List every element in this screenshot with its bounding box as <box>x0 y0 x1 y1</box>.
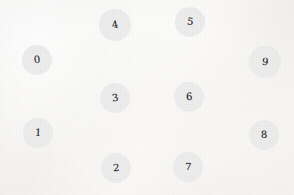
circle-node-label: 1 <box>34 128 41 138</box>
circle-node-label: 6 <box>185 92 192 102</box>
circle-node-9[interactable]: 9 <box>249 46 281 78</box>
circle-node-label: 3 <box>111 93 119 104</box>
circle-node-label: 7 <box>185 162 192 172</box>
circle-node-label: 8 <box>261 130 268 140</box>
circle-node-label: 0 <box>33 55 40 66</box>
circle-node-1[interactable]: 1 <box>23 118 53 148</box>
circle-node-6[interactable]: 6 <box>174 82 204 112</box>
circle-node-label: 4 <box>111 20 119 31</box>
circle-node-0[interactable]: 0 <box>22 45 52 75</box>
paper-texture-overlay <box>0 0 294 195</box>
vignette-overlay <box>0 0 294 195</box>
circle-node-8[interactable]: 8 <box>249 120 279 150</box>
circle-node-label: 5 <box>186 17 194 28</box>
diagram-canvas: 0123456789 <box>0 0 294 195</box>
circle-node-label: 2 <box>113 163 120 173</box>
circle-node-label: 9 <box>261 57 268 68</box>
circle-node-5[interactable]: 5 <box>175 7 205 37</box>
circle-node-4[interactable]: 4 <box>99 9 131 41</box>
circle-node-2[interactable]: 2 <box>101 153 131 183</box>
circle-node-3[interactable]: 3 <box>100 83 130 113</box>
circle-node-7[interactable]: 7 <box>173 152 203 182</box>
